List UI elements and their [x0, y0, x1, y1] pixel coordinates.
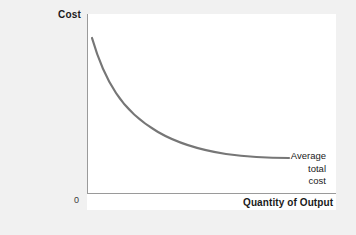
- curve-annotation-line-3: cost: [262, 175, 326, 188]
- average-total-cost-curve: [92, 38, 289, 158]
- average-total-cost-figure: Cost Quantity of Output 0 Average total …: [0, 0, 356, 235]
- x-axis-label: Quantity of Output: [243, 197, 333, 208]
- curve-annotation-label: Average total cost: [262, 150, 326, 188]
- curve-annotation-line-2: total: [262, 163, 326, 176]
- origin-label: 0: [74, 195, 79, 205]
- curve-annotation-line-1: Average: [262, 150, 326, 163]
- y-axis-label: Cost: [58, 9, 81, 20]
